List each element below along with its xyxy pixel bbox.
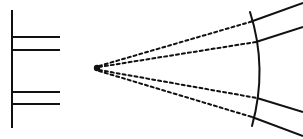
diagram-canvas [0,0,303,139]
source-point-dot [94,65,100,71]
diagram-svg [0,0,303,139]
